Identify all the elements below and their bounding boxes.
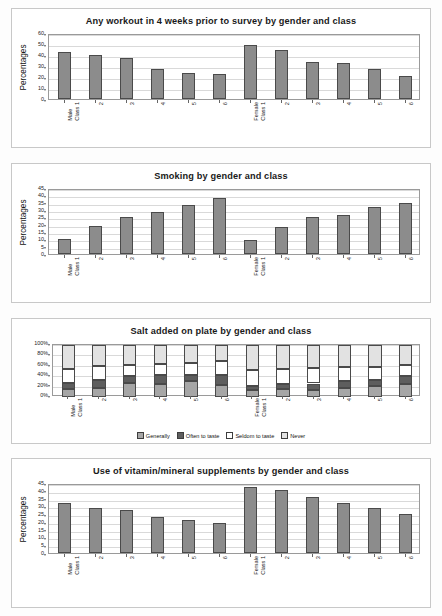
x-label-line2: Class 1 [77, 398, 84, 417]
x-axis-tick-label: 4 [346, 257, 353, 260]
y-axis-tick-label: 5 [41, 245, 44, 250]
gridline [49, 508, 419, 509]
bar-segment [92, 366, 105, 381]
bar-segment [215, 375, 228, 385]
bar-segment [184, 345, 197, 363]
bar [337, 63, 351, 99]
bar [89, 55, 103, 99]
stacked-bar [215, 345, 228, 397]
x-axis-tick-label: FemaleClass 1 [254, 398, 268, 417]
gridline [49, 190, 419, 191]
gridline [49, 532, 419, 533]
gridline [49, 212, 419, 213]
bar-segment [123, 365, 136, 376]
x-label-line2: Class 1 [261, 398, 268, 417]
x-label-line1: 4 [346, 398, 352, 401]
bar [182, 520, 196, 553]
x-axis-tick-label: 4 [160, 102, 167, 105]
x-label-line1: 4 [160, 102, 166, 105]
x-axis-tick-label: 6 [222, 556, 229, 559]
x-axis-tick [190, 396, 191, 399]
y-axis-tick-label: 20% [37, 383, 48, 388]
x-label-line1: 3 [129, 102, 135, 105]
gridline [49, 46, 419, 47]
bar-segment [246, 386, 259, 391]
bar-segment [276, 345, 289, 369]
x-axis-tick [188, 554, 189, 557]
x-axis-tick [405, 554, 406, 557]
x-label-line1: 3 [132, 398, 138, 401]
bar [306, 217, 320, 254]
x-label-line1: 3 [129, 257, 135, 260]
x-axis-tick [157, 554, 158, 557]
chart-title-smoking: Smoking by gender and class [12, 171, 430, 181]
stacked-bar [246, 345, 259, 397]
bar [275, 227, 289, 254]
bar [58, 239, 72, 254]
bar-segment [307, 384, 320, 390]
y-axis-tick-label: 40 [38, 53, 44, 58]
y-axis-tick-label: 20 [38, 520, 44, 525]
y-axis-tick-label: 20 [38, 75, 44, 80]
x-label-line1: 4 [160, 556, 166, 559]
x-axis-tick-label: 6 [408, 556, 415, 559]
bar [89, 508, 103, 553]
bar [58, 52, 72, 99]
x-axis-labels: MaleClass 123456FemaleClass 123456 [48, 554, 420, 600]
stacked-bar [307, 345, 320, 397]
x-label-line1: 5 [191, 257, 197, 260]
gridline [49, 249, 419, 250]
gridline [53, 345, 419, 346]
stacked-bar [399, 345, 412, 397]
x-label-line1: Female [253, 556, 259, 575]
y-axis-tick-label: 50 [38, 42, 44, 47]
bar-segment [307, 345, 320, 368]
report-page: Any workout in 4 weeks prior to survey b… [0, 0, 442, 616]
x-axis-tick-label: 3 [315, 102, 322, 105]
plot-area [48, 484, 420, 554]
x-axis-tick-label: 4 [346, 102, 353, 105]
gridline [49, 68, 419, 69]
x-axis-tick-label: 6 [224, 398, 231, 401]
y-axis-tick-label: 15 [38, 230, 44, 235]
y-axis-ticks: 051015202530354045 [24, 189, 46, 255]
x-label-line1: 2 [98, 257, 104, 260]
x-label-line1: 2 [98, 556, 104, 559]
bar [213, 523, 227, 553]
bar [337, 503, 351, 553]
x-axis-tick [250, 255, 251, 258]
y-axis-tick-label: 0% [40, 393, 48, 398]
chart-panel-salt: Salt added on plate by gender and class … [11, 318, 431, 444]
bar-segment [154, 364, 167, 375]
x-label-line1: 2 [98, 102, 104, 105]
x-label-line1: 6 [222, 257, 228, 260]
bar-segment [215, 361, 228, 375]
x-label-line1: 5 [191, 102, 197, 105]
chart-panel-workout: Any workout in 4 weeks prior to survey b… [11, 8, 431, 148]
bar [151, 212, 165, 254]
gridline [49, 516, 419, 517]
x-axis-tick-label: MaleClass 1 [67, 257, 81, 276]
y-axis-tick-label: 0 [41, 97, 44, 102]
y-axis-tick-label: 20 [38, 223, 44, 228]
x-axis-tick [312, 255, 313, 258]
x-label-line2: Class 1 [259, 556, 266, 575]
y-axis-tick-label: 15 [38, 528, 44, 533]
gridline [49, 57, 419, 58]
gridline [49, 241, 419, 242]
x-axis-tick [67, 396, 68, 399]
gridline [49, 493, 419, 494]
legend-item: Generally [137, 432, 170, 439]
x-axis-tick-label: MaleClass 1 [67, 102, 81, 121]
y-axis-tick-label: 35 [38, 497, 44, 502]
bar-segment [338, 381, 351, 387]
chart-body-workout: Percentages0102030405060MaleClass 123456… [16, 30, 424, 148]
x-axis-tick-label: 2 [284, 102, 291, 105]
x-label-line1: 4 [346, 102, 352, 105]
x-axis-tick [64, 554, 65, 557]
x-axis-tick [188, 255, 189, 258]
x-axis-tick-label: 3 [315, 257, 322, 260]
x-axis-tick-label: 4 [346, 556, 353, 559]
x-label-line1: Female [254, 398, 260, 417]
y-axis-tick-label: 10 [38, 238, 44, 243]
